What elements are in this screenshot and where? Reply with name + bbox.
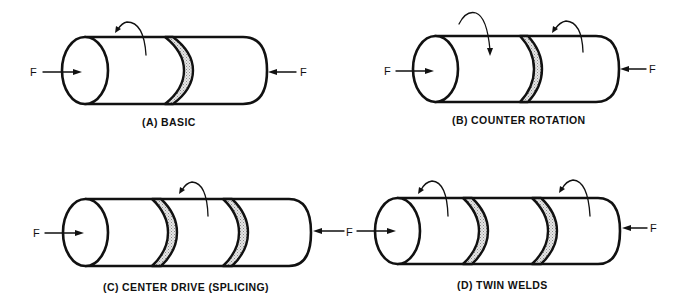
panel-d-twin-welds: F (D) TWIN WELDS <box>357 180 657 291</box>
force-label: F <box>384 65 391 77</box>
force-label: F <box>649 63 656 75</box>
force-label: F <box>30 66 37 78</box>
weld-d-1 <box>463 198 488 264</box>
force-label-shared: F <box>346 226 353 238</box>
caption-b: (B) COUNTER ROTATION <box>452 114 586 126</box>
caption-c: (C) CENTER DRIVE (SPLICING) <box>103 281 269 293</box>
panel-a-basic: F F (A) BASIC <box>30 22 307 128</box>
force-arrow-right-b: F <box>620 63 656 75</box>
weld-c-2 <box>223 199 248 266</box>
weld-c-1 <box>152 199 177 266</box>
caption-d: (D) TWIN WELDS <box>457 279 548 291</box>
cylinder-d <box>375 198 620 264</box>
weld-b <box>520 36 542 102</box>
weld-a <box>165 37 193 104</box>
rotation-arrow-clockwise-icon <box>459 12 493 56</box>
panel-b-counter-rotation: F F (B) COUNTER ROTATION <box>384 12 656 126</box>
force-label: F <box>300 66 307 78</box>
rotation-arrow-icon <box>115 22 146 55</box>
force-arrow-right-c <box>313 228 344 234</box>
cylinder-a <box>62 37 267 104</box>
friction-welding-diagram: F F (A) BASIC F <box>0 0 690 306</box>
panel-c-center-drive: F (C) CENTER DRIVE (SPLICING) <box>33 182 344 293</box>
cylinder-b <box>413 36 619 102</box>
caption-a: (A) BASIC <box>142 116 196 128</box>
cylinder-c <box>63 199 311 266</box>
force-arrow-right-a: F <box>268 66 307 78</box>
force-arrow-right-d: F <box>622 222 657 234</box>
weld-d-2 <box>532 198 557 264</box>
force-label: F <box>33 227 40 239</box>
force-label: F <box>650 222 657 234</box>
